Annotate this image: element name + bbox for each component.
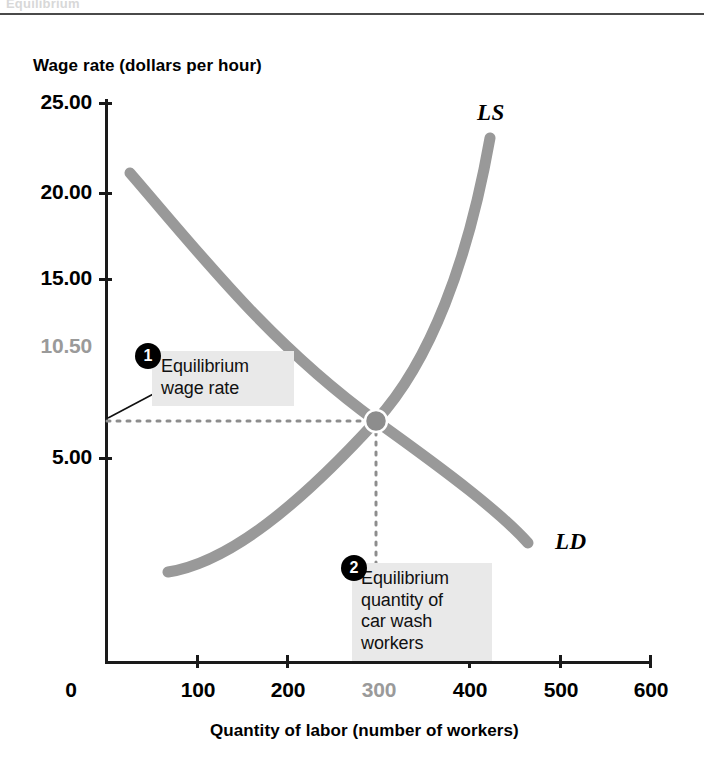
economics-supply-demand-chart: Wage rate (dollars per hour) Quantity of…	[0, 14, 704, 780]
callout-1-line-2: wage rate	[161, 378, 285, 400]
callout-1-badge: 1	[135, 343, 161, 369]
curve-label-ld: LD	[555, 529, 587, 555]
callout-2-badge: 2	[341, 555, 367, 581]
callout-2-line-4: workers	[361, 633, 483, 655]
callout-2-text-box: Equilibrium quantity of car wash workers	[352, 563, 492, 661]
callout-2-line-3: car wash	[361, 611, 483, 633]
callout-2-line-2: quantity of	[361, 590, 483, 612]
equilibrium-point-marker	[365, 410, 387, 432]
callout-2-line-1: Equilibrium	[361, 568, 483, 590]
page-header-faint-text: Equilibrium	[6, 0, 80, 11]
callout-1-text-box: Equilibrium wage rate	[152, 351, 294, 406]
callout-1-line-1: Equilibrium	[161, 356, 285, 378]
chart-plot-area	[0, 14, 704, 780]
curve-label-ls: LS	[477, 100, 505, 126]
